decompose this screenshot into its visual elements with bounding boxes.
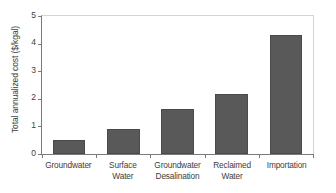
y-axis-tick-labels: 012345 — [22, 15, 36, 153]
x-axis-tick-label-line: Water — [205, 171, 260, 182]
x-axis-tick-mark — [42, 154, 43, 158]
y-axis-title: Total annualized cost ($/kgal) — [8, 2, 22, 157]
bar-slot — [259, 16, 313, 154]
x-axis-tick-label: GroundwaterDesalination — [150, 160, 205, 182]
y-axis-tick-label: 5 — [22, 11, 36, 20]
y-axis-tick-mark — [38, 126, 42, 127]
x-axis-tick-label-line: Groundwater — [150, 160, 205, 171]
bars-layer — [42, 16, 313, 154]
x-axis-tick-label: SurfaceWater — [96, 160, 151, 182]
y-axis-tick-label: 0 — [22, 149, 36, 158]
bar — [270, 35, 303, 154]
y-axis-tick-label: 1 — [22, 121, 36, 130]
x-axis-tick-label-line: Reclaimed — [205, 160, 260, 171]
bar-slot — [205, 16, 259, 154]
x-axis-tick-mark — [205, 154, 206, 158]
x-axis-tick-mark — [259, 154, 260, 158]
y-axis-tick-label: 4 — [22, 38, 36, 47]
x-axis-tick-label-line: Importation — [259, 160, 314, 171]
bar-chart: Total annualized cost ($/kgal) 012345 Gr… — [0, 0, 336, 193]
bar-slot — [150, 16, 204, 154]
x-axis-tick-label: Importation — [259, 160, 314, 182]
y-axis-tick-mark — [38, 16, 42, 17]
x-axis-tick-label: ReclaimedWater — [205, 160, 260, 182]
y-axis-tick-label: 2 — [22, 93, 36, 102]
bar — [53, 140, 86, 154]
bar-slot — [96, 16, 150, 154]
bar — [215, 94, 248, 154]
y-axis-tick-label: 3 — [22, 66, 36, 75]
x-axis-tick-mark — [313, 154, 314, 158]
x-axis-tick-mark — [150, 154, 151, 158]
bar — [107, 129, 140, 154]
bar-slot — [42, 16, 96, 154]
x-axis-tick-label-line: Surface — [96, 160, 151, 171]
y-axis-tick-mark — [38, 44, 42, 45]
x-axis-tick-label-line: Groundwater — [41, 160, 96, 171]
x-axis-tick-label-line: Desalination — [150, 171, 205, 182]
x-axis-tick-mark — [96, 154, 97, 158]
x-axis-tick-labels: GroundwaterSurfaceWaterGroundwaterDesali… — [41, 160, 314, 182]
x-axis-tick-label-line: Water — [96, 171, 151, 182]
plot-area — [41, 15, 314, 155]
y-axis-tick-mark — [38, 71, 42, 72]
y-axis-tick-mark — [38, 99, 42, 100]
bar — [161, 109, 194, 154]
x-axis-tick-label: Groundwater — [41, 160, 96, 182]
